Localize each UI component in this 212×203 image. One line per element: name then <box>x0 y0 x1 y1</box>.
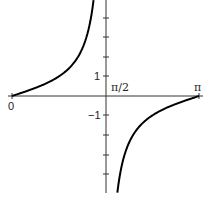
y-tick-label-neg1: −1 <box>88 109 101 121</box>
y-tick-label-1: 1 <box>94 70 100 82</box>
x-tick-label-0: 0 <box>8 100 14 112</box>
tan-curve-right-branch <box>117 96 199 193</box>
tan-curve-left-branch <box>12 0 94 96</box>
x-tick-label-pi: π <box>194 81 201 94</box>
x-tick-label-half-pi: π/2 <box>111 81 129 94</box>
tangent-chart: 0 π/2 π 1 −1 <box>0 0 212 203</box>
